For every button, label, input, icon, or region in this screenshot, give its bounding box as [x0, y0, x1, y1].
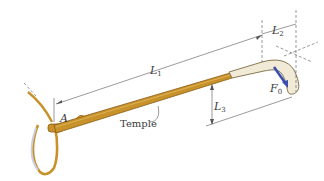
label-point-a: A [59, 112, 68, 125]
label-l1: L1 [149, 64, 162, 78]
temple-tip [229, 60, 299, 94]
label-l3: L3 [213, 100, 226, 114]
label-l2: L2 [271, 24, 284, 38]
eyeglass-temple-diagram: A Temple L1 L2 L3 F0 [0, 0, 324, 181]
label-temple: Temple [120, 118, 157, 129]
label-force: F0 [269, 82, 282, 96]
